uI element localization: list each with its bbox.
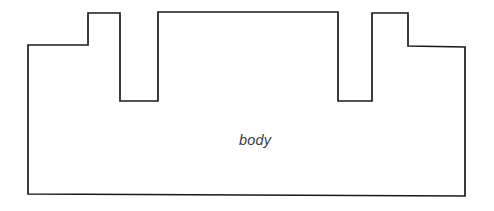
body-outline-svg: body (0, 0, 494, 211)
body-outline-polygon[interactable] (28, 12, 465, 196)
diagram-canvas: body (0, 0, 494, 211)
body-label: body (239, 132, 272, 148)
